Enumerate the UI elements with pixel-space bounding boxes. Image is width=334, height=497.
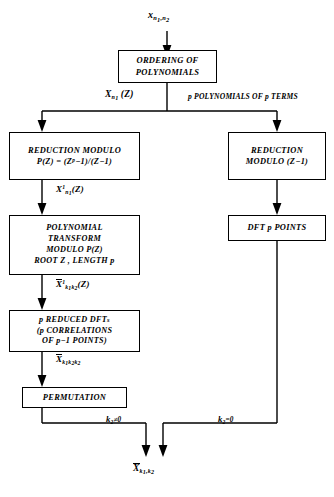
poly-transform-line2: TRANSFORM	[48, 234, 101, 245]
poly-transform-line3: MODULO P(Z)	[46, 245, 103, 256]
reduced-dfts-line2: (p CORRELATIONS	[37, 326, 113, 337]
left-branch-tail: (Z)	[121, 89, 134, 99]
reduced-dfts-line1-a: p REDUCED DFT	[39, 315, 107, 324]
input-sub2-sub: 2	[166, 16, 169, 23]
reduction-pz-prefix: P(Z) = (Z	[37, 157, 72, 166]
reduction-pz-suffix: −1)/(Z−1)	[75, 157, 112, 166]
after-reduction-tail: (Z)	[72, 184, 84, 194]
reduced-dfts-line3-b: −1 POINTS)	[61, 336, 107, 345]
poly-transform-line1: POLYNOMIAL	[46, 223, 102, 234]
node-reduced-dfts[interactable]: p REDUCED DFTs (p CORRELATIONS OF p−1 PO…	[9, 310, 140, 352]
edge-label-output: Xk1,k2	[133, 463, 154, 475]
reduced-dfts-line1: p REDUCED DFTs	[39, 315, 110, 326]
ordering-line2: POLYNOMIALS	[136, 67, 199, 78]
reduction-z1-line1: REDUCTION	[251, 145, 303, 156]
dft-p-points-line1: DFT p POINTS	[248, 222, 307, 233]
node-ordering-of-polynomials[interactable]: ORDERING OF POLYNOMIALS	[118, 50, 217, 83]
node-dft-p-points[interactable]: DFT p POINTS	[228, 215, 326, 241]
reduced-dfts-line1-b: s	[107, 316, 110, 323]
edge-label-after-dfts: Xk1k2k2	[56, 354, 81, 366]
permutation-line1: PERMUTATION	[43, 392, 106, 403]
reduction-pz-line2: P(Z) = (Zp−1)/(Z−1)	[37, 156, 112, 167]
edge-label-condition-right: k2=0	[218, 414, 234, 425]
after-dfts-sub3-sub: 2	[78, 360, 81, 366]
node-reduction-modulo-pz[interactable]: REDUCTION MODULO P(Z) = (Zp−1)/(Z−1)	[9, 132, 140, 180]
cond-right-rel: =0	[225, 416, 233, 424]
edge-label-after-transform: X1k1k2(Z)	[56, 279, 90, 291]
after-transform-tail: (Z)	[78, 279, 90, 289]
ordering-line1: ORDERING OF	[136, 55, 198, 66]
cond-left-rel: ≠0	[113, 416, 121, 424]
edge-label-condition-left: k2≠0	[106, 414, 121, 425]
edge-label-after-reduction: X1n1(Z)	[56, 184, 84, 196]
poly-transform-line4: ROOT Z , LENGTH p	[34, 256, 114, 267]
reduction-pz-line1: REDUCTION MODULO	[28, 145, 121, 156]
reduced-dfts-line3: OF p−1 POINTS)	[42, 336, 107, 347]
node-permutation[interactable]: PERMUTATION	[22, 387, 127, 408]
edge-label-left-branch: Xn1 (Z)	[105, 89, 134, 101]
reduction-z1-line2: MODULO (Z−1)	[246, 156, 308, 167]
flowchart-canvas: xn1,n2 ORDERING OF POLYNOMIALS Xn1 (Z) p…	[0, 0, 334, 497]
edge-label-input: xn1,n2	[148, 9, 169, 23]
edge-label-right-branch: p POLYNOMIALS OF p TERMS	[188, 92, 298, 101]
reduced-dfts-line3-a: OF p	[42, 336, 61, 345]
node-polynomial-transform[interactable]: POLYNOMIAL TRANSFORM MODULO P(Z) ROOT Z …	[9, 215, 140, 275]
node-reduction-modulo-z-minus-1[interactable]: REDUCTION MODULO (Z−1)	[228, 132, 326, 180]
output-sub2-sub: 2	[151, 469, 154, 475]
